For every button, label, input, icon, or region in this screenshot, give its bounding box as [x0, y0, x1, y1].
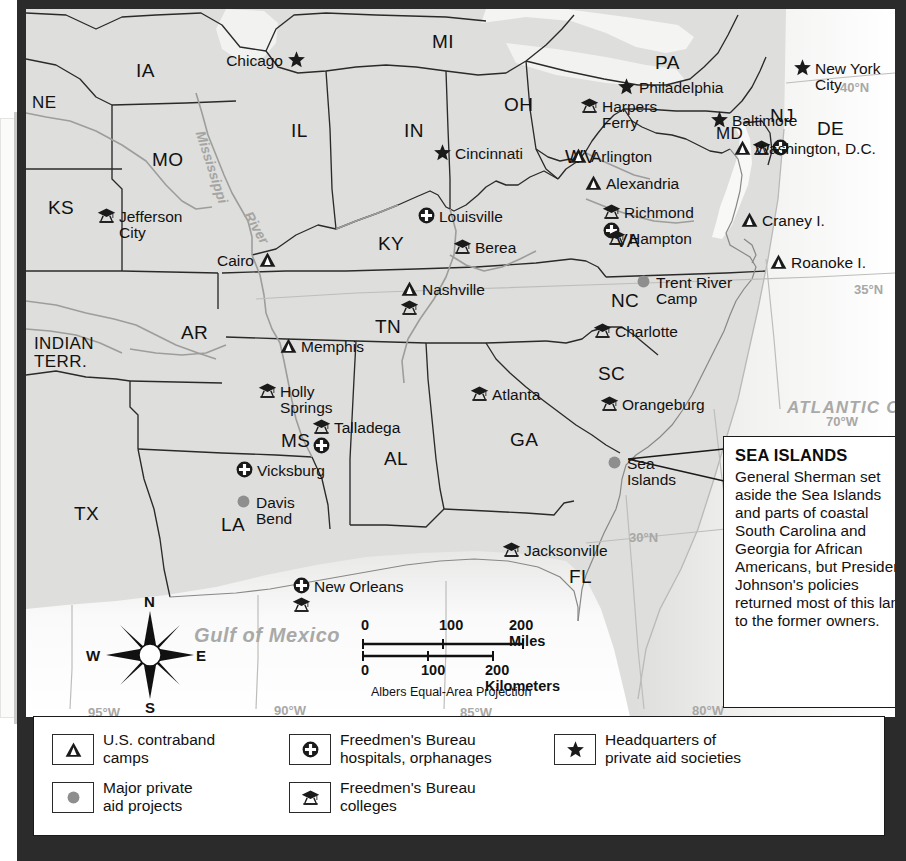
water-label-gulf-of-mexico: Gulf of Mexico — [194, 625, 340, 646]
map-symbol-cluster-orangeburg[interactable] — [600, 394, 619, 413]
scale-km-tick-0: 0 — [361, 662, 369, 678]
state-label-tn: TN — [375, 317, 401, 337]
city-label-cairo: Cairo — [217, 253, 254, 269]
map-symbol-cluster-charlotte[interactable] — [593, 321, 612, 340]
camp-icon — [733, 138, 752, 157]
camp-icon — [584, 173, 603, 192]
map-symbol-cluster-baltimore[interactable] — [710, 110, 729, 129]
map-symbol-cluster-louisville[interactable] — [417, 206, 436, 225]
compass-west-label: W — [86, 647, 100, 664]
sea-islands-callout: SEA ISLANDS General Sherman set aside th… — [723, 436, 895, 708]
compass-rose: N E S W — [104, 609, 196, 701]
city-label-cincinnati: Cincinnati — [455, 146, 523, 162]
college-icon — [470, 384, 489, 403]
state-label-nc: NC — [611, 291, 639, 311]
compass-north-label: N — [144, 593, 155, 610]
projection-label: Albers Equal-Area Projection — [371, 685, 532, 699]
map-symbol-cluster-hampton[interactable] — [607, 228, 626, 247]
map-symbol-cluster-new-orleans[interactable] — [292, 576, 311, 614]
graticule-label-35-n: 35°N — [854, 283, 883, 297]
map-symbol-cluster-vicksburg[interactable] — [235, 460, 254, 479]
map-symbol-cluster-new-york-city[interactable] — [793, 58, 812, 77]
legend-item-label: Headquarters of private aid societies — [605, 731, 741, 766]
legend-item-star[interactable]: Headquarters of private aid societies — [554, 731, 741, 766]
legend-item-hospital[interactable]: Freedmen's Bureau hospitals, orphanages — [289, 731, 492, 766]
map-symbol-cluster-cincinnati[interactable] — [433, 143, 452, 162]
star-icon — [287, 50, 306, 69]
college-icon — [97, 206, 116, 225]
camp-icon — [52, 734, 94, 765]
hospital-icon — [292, 576, 311, 595]
scale-km-tick-1: 100 — [421, 662, 445, 678]
map-symbol-cluster-roanoke-i[interactable] — [769, 252, 788, 271]
map-symbol-cluster-memphis[interactable] — [279, 336, 298, 355]
city-label-holly-springs: Holly Springs — [280, 384, 333, 416]
compass-south-label: S — [145, 699, 155, 716]
city-label-roanoke-i: Roanoke I. — [791, 255, 866, 271]
map-symbol-cluster-jacksonville[interactable] — [502, 540, 521, 559]
college-icon — [289, 782, 331, 813]
dot-icon — [52, 782, 94, 813]
map-symbol-cluster-berea[interactable] — [453, 237, 472, 256]
graticule-label-40-n: 40°N — [840, 81, 869, 95]
state-label-de: DE — [817, 119, 844, 139]
state-label-ky: KY — [378, 234, 404, 254]
legend-item-label: Major private aid projects — [103, 779, 193, 814]
map-symbol-cluster-philadelphia[interactable] — [617, 77, 636, 96]
college-icon — [258, 381, 277, 400]
city-label-charlotte: Charlotte — [615, 324, 678, 340]
camp-icon — [258, 250, 277, 269]
city-label-memphis: Memphis — [301, 339, 364, 355]
hospital-icon — [235, 460, 254, 479]
map-page: NEIAILINMIOHPANJDEMDMOKSKYWVVAARTNNCSCMS… — [0, 0, 906, 861]
camp-icon — [400, 279, 419, 298]
state-label-pa: PA — [655, 53, 680, 73]
city-label-arlington: Arlington — [591, 149, 652, 165]
star-icon — [793, 58, 812, 77]
map-symbol-cluster-craney-i[interactable] — [740, 210, 759, 229]
city-label-chicago: Chicago — [226, 53, 283, 69]
map-symbol-cluster-trent-river-camp[interactable] — [634, 272, 653, 291]
camp-icon — [769, 252, 788, 271]
star-icon — [433, 143, 452, 162]
state-label-ms: MS — [281, 431, 310, 451]
compass-rose-icon — [104, 609, 196, 701]
hospital-icon — [289, 734, 331, 765]
map-symbol-cluster-harpers-ferry[interactable] — [580, 96, 599, 115]
legend-items: U.S. contraband campsMajor private aid p… — [34, 717, 884, 835]
map-symbol-cluster-davis-bend[interactable] — [234, 492, 253, 511]
map-symbol-cluster-cairo[interactable] — [258, 250, 277, 269]
legend-item-camp[interactable]: U.S. contraband camps — [52, 731, 215, 766]
map-symbol-cluster-jefferson-city[interactable] — [97, 206, 116, 225]
city-label-louisville: Louisville — [439, 209, 503, 225]
state-label-al: AL — [384, 449, 408, 469]
map-symbol-cluster-sea-islands[interactable] — [605, 453, 624, 472]
star-icon — [617, 77, 636, 96]
dot-icon — [634, 272, 653, 291]
compass-east-label: E — [196, 647, 206, 664]
scale-miles-tick-1: 100 — [439, 617, 463, 633]
city-label-sea-islands: Sea Islands — [627, 456, 676, 488]
map-symbol-cluster-arlington[interactable] — [569, 146, 588, 165]
legend-item-label: U.S. contraband camps — [103, 731, 215, 766]
map-symbol-cluster-atlanta[interactable] — [470, 384, 489, 403]
map-symbol-cluster-nashville[interactable] — [400, 279, 419, 317]
legend-item-dot[interactable]: Major private aid projects — [52, 779, 193, 814]
city-label-new-orleans: New Orleans — [314, 579, 404, 595]
map-canvas[interactable]: NEIAILINMIOHPANJDEMDMOKSKYWVVAARTNNCSCMS… — [26, 9, 895, 717]
map-symbol-cluster-holly-springs[interactable] — [258, 381, 277, 400]
state-label-in: IN — [404, 121, 424, 141]
college-icon — [400, 298, 419, 317]
star-icon — [710, 110, 729, 129]
hospital-icon — [417, 206, 436, 225]
state-label-fl: FL — [569, 567, 592, 587]
camp-icon — [740, 210, 759, 229]
map-symbol-cluster-chicago[interactable] — [287, 50, 306, 69]
state-label-ga: GA — [510, 430, 538, 450]
college-icon — [602, 202, 621, 221]
state-label-la: LA — [221, 515, 245, 535]
map-symbol-cluster-talladega[interactable] — [312, 417, 331, 455]
map-symbol-cluster-alexandria[interactable] — [584, 173, 603, 192]
callout-title: SEA ISLANDS — [735, 446, 895, 465]
legend-item-college[interactable]: Freedmen's Bureau colleges — [289, 779, 476, 814]
